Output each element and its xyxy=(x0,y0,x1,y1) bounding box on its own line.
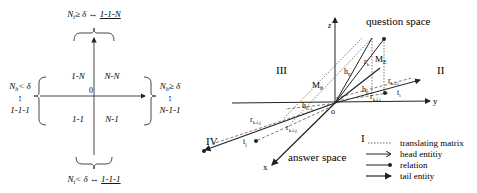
label-h-E: hE xyxy=(344,67,351,77)
x-axis-label: x xyxy=(263,162,268,172)
left-condition-mapping: 1-1-1 xyxy=(10,105,30,115)
y-axis xyxy=(232,101,430,103)
answer-space-label: answer space xyxy=(288,151,346,163)
relation-endpoint xyxy=(202,149,206,153)
y-axis-label: y xyxy=(433,96,438,106)
label-r-k-perp-i: rk⊥i xyxy=(388,76,399,86)
tail-entity-vector xyxy=(205,103,335,150)
origin-label: 0 xyxy=(89,86,93,95)
left-brace xyxy=(34,77,46,125)
region-I: I xyxy=(361,132,365,144)
label-r-k-perp-j: rk⊥j xyxy=(250,115,261,125)
region-IV: IV xyxy=(206,135,218,147)
quadrant-top-left: 1-N xyxy=(71,71,85,81)
bottom-brace xyxy=(76,157,112,169)
label-M-theta: Mθ xyxy=(312,80,323,91)
label-r-k-perp-i-2: rk⊥i xyxy=(370,92,381,102)
legend-label: translating matrix xyxy=(400,138,464,148)
question-space-label: question space xyxy=(366,15,431,27)
label-t-j: tj xyxy=(243,137,247,147)
legend-label: relation xyxy=(400,160,428,170)
bottom-condition: Nt< δ ↔ 1-1-1 xyxy=(66,174,120,185)
label-r-k-perp-j-2: rk⊥j xyxy=(286,123,297,133)
right-condition-arrow: ↕ xyxy=(168,93,173,103)
right-brace xyxy=(144,77,156,125)
left-panel: Nt≥ δ ↔ 1-1-N Nt< δ ↔ 1-1-1 Nh< δ ↕ 1-1-… xyxy=(8,9,181,185)
label-t-i: ti xyxy=(397,88,401,98)
region-II: II xyxy=(437,64,445,76)
legend-label: head entitiy xyxy=(400,149,443,159)
legend: translating matrix head entitiy relation… xyxy=(366,138,464,181)
translating-matrix-line xyxy=(284,38,362,118)
quadrant-bottom-right: N-1 xyxy=(104,114,119,124)
label-M-E: ME xyxy=(375,54,387,65)
relation-endpoint xyxy=(254,139,258,143)
legend-dot-swatch-end xyxy=(388,163,392,167)
left-condition-arrow: ↕ xyxy=(18,93,23,103)
quadrant-top-right: N-N xyxy=(103,71,120,81)
origin-o-label: o xyxy=(331,107,335,116)
relation-endpoint xyxy=(383,91,387,95)
top-condition: Nt≥ δ ↔ 1-1-N xyxy=(66,9,122,20)
quadrant-bottom-left: 1-1 xyxy=(72,114,84,124)
dashed-relation xyxy=(212,104,333,144)
right-panel: z y x o question space answer space III … xyxy=(202,15,464,181)
left-condition-rel: Nh< δ xyxy=(8,81,31,92)
right-condition-rel: Nh≥ δ xyxy=(159,81,181,92)
region-III: III xyxy=(276,64,287,76)
dashed-relation xyxy=(256,106,333,141)
legend-label: tail entity xyxy=(400,171,435,181)
diagram-canvas: Nt≥ δ ↔ 1-1-N Nt< δ ↔ 1-1-1 Nh< δ ↕ 1-1-… xyxy=(0,0,477,193)
z-axis-label: z xyxy=(327,21,332,30)
right-condition-mapping: N-1-1 xyxy=(159,105,181,115)
